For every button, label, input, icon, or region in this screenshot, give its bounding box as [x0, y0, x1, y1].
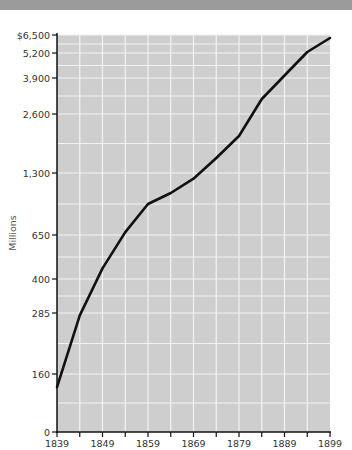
x-tick-label: 1839: [45, 438, 69, 449]
x-tick-label: 1849: [90, 438, 114, 449]
y-tick-label: 5,200: [23, 48, 50, 59]
x-tick-label: 1899: [318, 438, 342, 449]
y-tick-label: 2,600: [23, 109, 50, 120]
x-tick-label: 1879: [227, 438, 251, 449]
y-tick-label: 0: [44, 427, 50, 438]
x-tick-label: 1889: [272, 438, 296, 449]
y-axis-title: Millions: [7, 215, 18, 251]
line-chart: $6,5005,2003,9002,6001,3006504002851600 …: [0, 0, 352, 450]
y-tick-label: 400: [32, 274, 50, 285]
y-tick-label: 1,300: [23, 168, 50, 179]
y-axis-ticks: $6,5005,2003,9002,6001,3006504002851600: [17, 30, 57, 438]
x-tick-label: 1859: [136, 438, 160, 449]
x-axis-ticks: 1839184918591869187918891899: [45, 432, 342, 449]
y-tick-label: 650: [32, 230, 50, 241]
x-tick-label: 1869: [181, 438, 205, 449]
y-tick-label: 285: [32, 308, 50, 319]
y-tick-label: 3,900: [23, 73, 50, 84]
y-tick-label: 160: [32, 369, 50, 380]
y-tick-label: $6,500: [17, 30, 50, 41]
